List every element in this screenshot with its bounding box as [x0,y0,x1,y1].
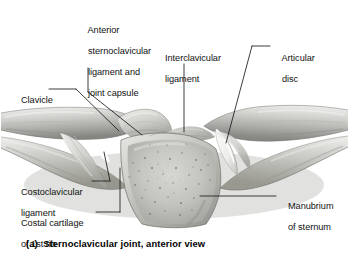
label-manubrium-of-sternum: Manubrium of sternum [278,190,334,243]
label-interclavicular-ligament: Interclavicular ligament [155,42,221,95]
label-line: Interclavicular [165,53,221,63]
label-line: Clavicle [21,95,53,105]
label-anterior-sternoclavicular-ligament: Anterior sternoclavicular ligament and j… [78,14,151,109]
label-line: ligament [165,74,199,84]
label-line: Costal cartilage [21,218,84,228]
label-line: of sternum [288,222,331,232]
label-line: sternoclavicular [88,46,151,56]
label-articular-disc: Articular disc [272,42,315,95]
label-line: Anterior [88,25,120,35]
figure-caption: (a) Sternoclavicular joint, anterior vie… [26,238,205,249]
label-line: Articular [282,53,315,63]
label-line: ligament and [88,67,140,77]
figure-sternoclavicular-joint: Anterior sternoclavicular ligament and j… [0,0,349,258]
label-line: disc [282,74,298,84]
manubrium-of-sternum [121,132,221,227]
label-line: Costoclavicular [21,187,83,197]
label-costal-cartilage-of-1st-rib: Costal cartilage of 1st rib [11,207,84,258]
label-line: Manubrium [288,201,334,211]
label-clavicle: Clavicle [11,84,53,116]
label-line: joint capsule [88,88,138,98]
